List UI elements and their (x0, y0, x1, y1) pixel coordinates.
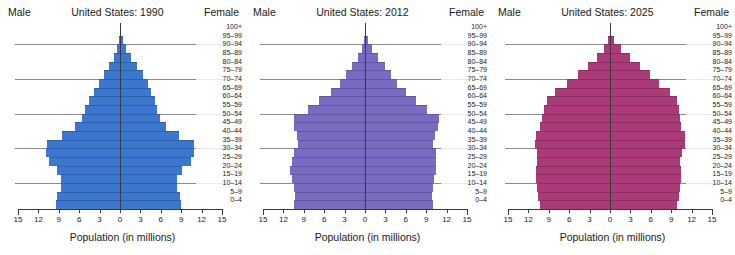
bar-female (365, 79, 397, 88)
bar-male (537, 183, 610, 192)
bar-male (99, 79, 120, 88)
bar-male (61, 174, 120, 183)
bar-female (610, 148, 682, 157)
bar-female (365, 44, 372, 53)
bar-male (75, 122, 120, 131)
bar-male (542, 114, 610, 123)
age-group-label: 70–74 (196, 75, 242, 84)
bar-male (294, 148, 365, 157)
bar-male (567, 79, 610, 88)
bar-female (120, 174, 177, 183)
bar-male (555, 88, 610, 97)
male-side-label: Male (253, 6, 276, 18)
bar-male (536, 174, 610, 183)
age-group-label: 65–69 (686, 84, 732, 93)
x-axis-tick-label: 6 (322, 215, 326, 224)
bar-female (610, 62, 640, 71)
age-group-label: 95–99 (441, 32, 487, 41)
center-axis-line (365, 23, 366, 209)
x-axis-tick-label: 3 (587, 215, 591, 224)
bar-male (319, 96, 365, 105)
x-axis-tick (161, 209, 162, 213)
bar-male (597, 53, 610, 62)
bar-male (540, 122, 610, 131)
age-group-labels: 100+95–9990–9485–8980–8475–7970–7465–696… (686, 23, 732, 213)
bar-female (610, 70, 650, 79)
age-group-label: 55–59 (196, 101, 242, 110)
x-axis-tick (283, 209, 284, 213)
x-axis-tick-label: 6 (77, 215, 81, 224)
x-axis-tick (324, 209, 325, 213)
x-axis-tick-label: 15 (504, 215, 513, 224)
age-group-label: 20–24 (686, 162, 732, 171)
bar-male (47, 140, 120, 149)
x-axis-tick-label: 0 (118, 215, 122, 224)
age-group-label: 35–39 (441, 136, 487, 145)
age-group-label: 50–54 (686, 110, 732, 119)
x-axis-tick-label: 6 (567, 215, 571, 224)
x-axis-tick-label: 3 (628, 215, 632, 224)
bar-female (120, 53, 131, 62)
age-group-label: 55–59 (686, 101, 732, 110)
bar-female (610, 88, 670, 97)
bar-male (295, 192, 365, 201)
bar-male (57, 166, 120, 175)
age-group-label: 5–9 (441, 188, 487, 197)
x-axis-tick (426, 209, 427, 213)
panel-title: United States: 2012 (316, 6, 408, 18)
x-axis-tick-label: 0 (363, 215, 367, 224)
x-axis-tick (610, 209, 611, 213)
age-group-label: 30–34 (196, 144, 242, 153)
age-group-label: 60–64 (196, 92, 242, 101)
bar-male (85, 105, 120, 114)
bar-male (544, 105, 610, 114)
age-group-label: 15–19 (441, 170, 487, 179)
age-group-label: 15–19 (686, 170, 732, 179)
bar-female (365, 114, 439, 123)
age-group-label: 95–99 (196, 32, 242, 41)
age-group-label: 100+ (196, 23, 242, 32)
bar-female (365, 105, 427, 114)
bar-female (610, 157, 680, 166)
age-group-label: 70–74 (686, 75, 732, 84)
bar-female (610, 96, 677, 105)
x-axis-title: Population (in millions) (490, 231, 735, 243)
bar-male (294, 122, 365, 131)
bar-female (610, 131, 685, 140)
bar-male (290, 166, 365, 175)
age-group-label: 45–49 (686, 118, 732, 127)
bar-male (57, 192, 120, 201)
bar-male (535, 140, 610, 149)
age-group-label: 45–49 (441, 118, 487, 127)
bar-male (588, 62, 610, 71)
x-axis-tick-label: 9 (179, 215, 183, 224)
x-axis-tick-label: 9 (547, 215, 551, 224)
panel-title: United States: 2025 (561, 6, 653, 18)
bar-male (547, 96, 610, 105)
x-axis-tick (549, 209, 550, 213)
bar-male (82, 114, 120, 123)
age-group-label: 25–29 (196, 153, 242, 162)
bar-female (610, 192, 679, 201)
x-axis-tick-label: 6 (649, 215, 653, 224)
center-axis-line (120, 23, 121, 209)
female-side-label: Female (694, 6, 729, 18)
bar-female (120, 131, 179, 140)
bar-male (104, 70, 120, 79)
age-group-label: 40–44 (196, 127, 242, 136)
age-group-label: 5–9 (196, 188, 242, 197)
age-group-label: 5–9 (686, 188, 732, 197)
age-group-label: 100+ (441, 23, 487, 32)
age-group-label: 85–89 (686, 49, 732, 58)
age-group-label: 60–64 (686, 92, 732, 101)
x-axis-tick-label: 3 (97, 215, 101, 224)
panel-header: MaleUnited States: 2025Female (498, 4, 729, 20)
bar-female (610, 44, 621, 53)
bar-female (610, 174, 681, 183)
x-axis-tick (528, 209, 529, 213)
bar-female (120, 44, 126, 53)
x-axis-tick-label: 9 (57, 215, 61, 224)
panel-header: MaleUnited States: 1990Female (8, 4, 239, 20)
bar-male (578, 70, 610, 79)
x-axis-tick-label: 12 (34, 215, 43, 224)
